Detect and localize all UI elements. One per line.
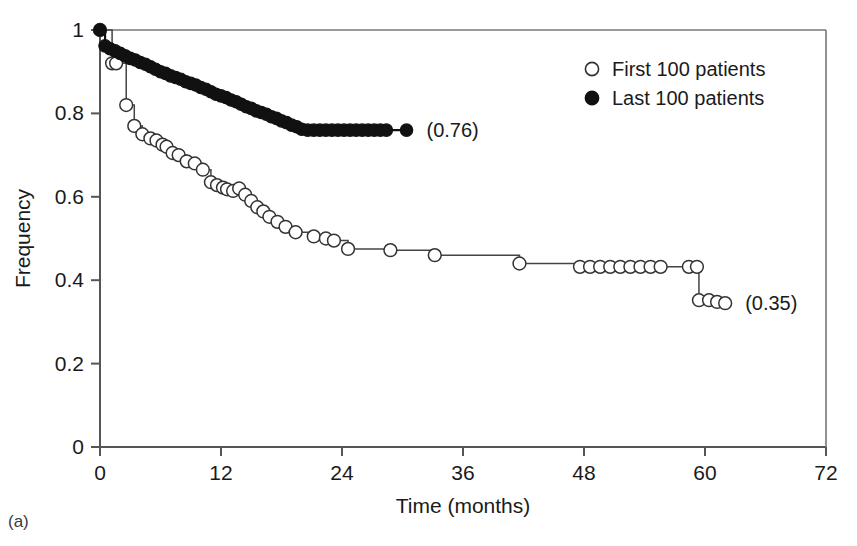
legend-label-first-100: First 100 patients — [612, 58, 765, 80]
data-point-marker — [428, 249, 441, 262]
x-axis-title: Time (months) — [396, 494, 531, 517]
data-point-marker — [719, 297, 732, 310]
survival-chart: 00.20.40.60.810122436486072Time (months)… — [0, 0, 857, 546]
legend: First 100 patientsLast 100 patients — [585, 58, 765, 109]
data-point-marker — [328, 234, 341, 247]
data-point-marker — [380, 124, 392, 136]
data-point-marker — [120, 99, 133, 112]
endpoint-annotation-first-100: (0.35) — [745, 292, 797, 314]
y-tick-label: 0.8 — [55, 101, 84, 124]
data-point-marker — [196, 163, 209, 176]
panel-label-container: (a) — [8, 512, 29, 532]
data-point-marker — [94, 24, 106, 36]
y-tick-label: 0.4 — [55, 268, 85, 291]
y-axis-title: Frequency — [11, 188, 34, 288]
series-last-100 — [94, 24, 413, 136]
x-tick-label: 36 — [451, 461, 474, 484]
x-tick-label: 60 — [693, 461, 716, 484]
figure-panel: 00.20.40.60.810122436486072Time (months)… — [0, 0, 857, 546]
data-point-marker — [654, 260, 667, 273]
x-tick-label: 24 — [330, 461, 354, 484]
legend-marker-open-circle-icon — [585, 62, 598, 75]
x-tick-label: 48 — [572, 461, 595, 484]
data-point-marker — [691, 260, 704, 273]
x-tick-label: 0 — [94, 461, 106, 484]
data-point-marker — [307, 230, 320, 243]
x-tick-label: 12 — [209, 461, 232, 484]
y-tick-label: 0.6 — [55, 185, 84, 208]
y-tick-label: 0.2 — [55, 352, 84, 375]
data-point-marker — [342, 243, 355, 256]
data-point-marker — [400, 124, 412, 136]
y-tick-label: 1 — [72, 18, 84, 41]
endpoint-annotation-last-100: (0.76) — [427, 119, 479, 141]
data-point-marker — [384, 244, 397, 257]
data-point-marker — [513, 257, 526, 270]
panel-label: (a) — [8, 512, 29, 531]
legend-marker-filled-circle-icon — [585, 91, 598, 104]
x-tick-label: 72 — [814, 461, 837, 484]
y-tick-label: 0 — [72, 435, 84, 458]
data-point-marker — [289, 226, 302, 239]
legend-label-last-100: Last 100 patients — [612, 87, 764, 109]
